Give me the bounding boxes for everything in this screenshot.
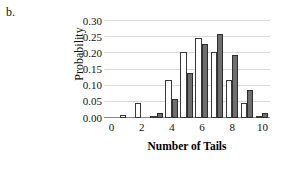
- bar-open-1: [120, 115, 126, 118]
- bar-filled-3: [157, 113, 163, 118]
- x-tick-label: 6: [191, 121, 213, 134]
- y-tick-label: 0.20: [58, 48, 102, 59]
- x-axis-title: Number of Tails: [104, 140, 270, 153]
- y-tick-label: 0.05: [58, 96, 102, 107]
- panel-letter-label: b.: [6, 6, 15, 18]
- bar-filled-6: [202, 44, 208, 118]
- bar-filled-5: [187, 73, 193, 118]
- y-tick-label: 0.10: [58, 80, 102, 91]
- bar-filled-4: [172, 99, 178, 118]
- x-axis-tick-labels: 0246810: [104, 121, 270, 137]
- y-tick-label: 0.15: [58, 64, 102, 75]
- bar-open-2: [135, 103, 141, 118]
- plot-area: [104, 21, 270, 118]
- x-tick-label: 10: [251, 121, 273, 134]
- bar-filled-7: [217, 34, 223, 118]
- x-tick-label: 8: [221, 121, 243, 134]
- figure-panel-b: b. Probability 0.000.050.100.150.200.250…: [0, 0, 286, 176]
- bar-filled-10: [262, 113, 268, 118]
- gridline: [104, 52, 270, 53]
- y-tick-label: 0.00: [58, 113, 102, 124]
- x-tick-label: 2: [131, 121, 153, 134]
- gridline: [104, 69, 270, 70]
- bar-filled-9: [247, 90, 253, 118]
- gridline: [104, 36, 270, 37]
- x-tick-label: 4: [161, 121, 183, 134]
- y-axis-title-wrapper: Probability: [28, 20, 50, 120]
- bar-filled-8: [232, 55, 238, 118]
- gridline: [104, 20, 270, 21]
- y-tick-label: 0.25: [58, 32, 102, 43]
- y-tick-label: 0.30: [58, 16, 102, 27]
- x-tick-label: 0: [101, 121, 123, 134]
- y-axis-tick-labels: 0.000.050.100.150.200.250.30: [58, 14, 102, 126]
